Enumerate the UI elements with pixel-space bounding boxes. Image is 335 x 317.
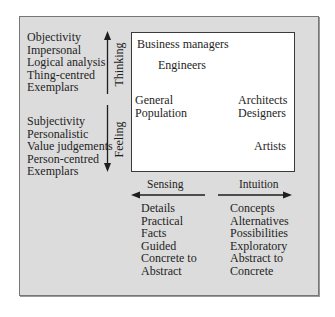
feeling-arrow-icon xyxy=(104,105,111,172)
sensing-arrow-icon xyxy=(131,192,205,199)
axis-arrows xyxy=(0,0,335,317)
intuition-arrow-icon xyxy=(218,192,292,199)
thinking-arrow-icon xyxy=(104,31,111,94)
